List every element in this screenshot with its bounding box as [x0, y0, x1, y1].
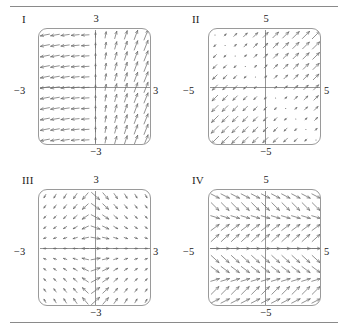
panel-label-II: II: [192, 13, 200, 25]
panel-III-axis-right-label: 3: [153, 246, 158, 257]
panel-II-plot-box: [208, 28, 321, 145]
panel-IV-axis-top-label: 5: [263, 174, 268, 185]
top-horizontal-rule: [10, 6, 338, 7]
panel-III-plot-box: [38, 189, 151, 306]
panel-II-vector-field: [209, 29, 321, 145]
panel-I-axis-top-label: 3: [93, 13, 98, 24]
panel-label-III: III: [22, 174, 34, 186]
bottom-horizontal-rule: [10, 322, 338, 323]
panel-IV-vector-field: [209, 190, 321, 306]
panel-IV-axis-right-label: 5: [324, 246, 329, 257]
panel-II-axis-left-label: −5: [183, 85, 194, 96]
panel-II-axis-bottom-label: −5: [260, 146, 271, 157]
panel-label-IV: IV: [192, 174, 204, 186]
panel-I-axis-right-label: 3: [153, 85, 158, 96]
panel-II-axis-top-label: 5: [263, 13, 268, 24]
panel-III-axis-top-label: 3: [93, 174, 98, 185]
panel-IV-axis-left-label: −5: [183, 246, 194, 257]
panel-I-axis-left-label: −3: [14, 85, 25, 96]
panel-I-vector-field: [39, 29, 151, 145]
panel-III-vector-field: [39, 190, 151, 306]
panel-I-plot-box: [38, 28, 151, 145]
panel-I-axis-bottom-label: −3: [90, 146, 101, 157]
panel-label-I: I: [22, 13, 26, 25]
panel-II-axis-right-label: 5: [324, 85, 329, 96]
panel-III-axis-left-label: −3: [14, 246, 25, 257]
panel-IV-plot-box: [208, 189, 321, 306]
panel-III-axis-bottom-label: −3: [90, 307, 101, 318]
panel-IV-axis-bottom-label: −5: [260, 307, 271, 318]
